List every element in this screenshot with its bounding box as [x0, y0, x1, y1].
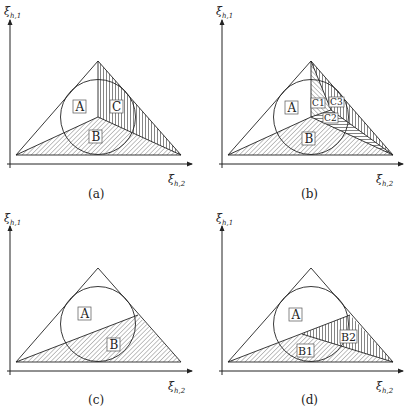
- region-label-b: B: [110, 338, 119, 352]
- region-label-b1: B1: [298, 345, 313, 358]
- region-label-c1: C1: [312, 98, 325, 108]
- panel-caption: (c): [88, 393, 104, 407]
- panel-a: ξh,1 ξh,2 A B C (a): [4, 5, 192, 201]
- y-axis-label: ξh,1: [4, 5, 21, 20]
- x-axis-label: ξh,2: [376, 380, 394, 395]
- region-label-c2: C2: [324, 113, 337, 123]
- x-axis-label: ξh,2: [376, 173, 394, 188]
- panel-c: ξh,1 ξh,2 A B (c): [4, 212, 192, 407]
- panel-caption: (b): [301, 187, 318, 201]
- region-label-b2: B2: [341, 331, 356, 344]
- y-axis-label: ξh,1: [216, 5, 233, 20]
- region-label-b: B: [92, 130, 101, 144]
- panel-b: ξh,1 ξh,2 A B C1 C2 C3 (b): [216, 5, 403, 201]
- panel-d: ξh,1 ξh,2 A B1 B2 (d): [216, 212, 403, 407]
- region-label-a: A: [287, 101, 297, 115]
- region-label-a: A: [291, 308, 301, 322]
- x-axis-label: ξh,2: [168, 173, 186, 188]
- region-label-b: B: [305, 132, 314, 146]
- figure-canvas: ξh,1 ξh,2 A B C (a) ξh,1 ξh,2 A B C1 C2: [0, 0, 405, 409]
- panel-caption: (a): [88, 187, 105, 201]
- region-label-c: C: [112, 100, 121, 114]
- region-label-a: A: [80, 307, 90, 321]
- y-axis-label: ξh,1: [216, 212, 233, 227]
- region-b-fill: [16, 315, 181, 362]
- y-axis-label: ξh,1: [4, 212, 21, 227]
- region-label-c3: C3: [330, 97, 343, 107]
- panel-caption: (d): [301, 393, 318, 407]
- x-axis-label: ξh,2: [168, 380, 186, 395]
- region-label-a: A: [75, 100, 85, 114]
